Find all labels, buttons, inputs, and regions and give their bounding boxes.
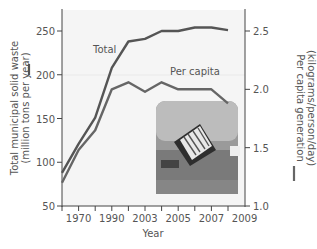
svg-text:1.5: 1.5 [253, 143, 269, 154]
svg-text:1990: 1990 [99, 213, 124, 224]
left-y-ticks: 50100150200250 [36, 26, 62, 212]
svg-text:200: 200 [36, 70, 55, 81]
svg-text:(kilograms/person/day): (kilograms/person/day) [306, 50, 317, 166]
right-axis-title: Per capita generation (kilograms/person/… [295, 50, 317, 166]
inset-photo [156, 101, 240, 194]
svg-text:250: 250 [36, 26, 55, 37]
right-y-ticks: 1.01.52.02.5 [245, 26, 269, 212]
svg-text:50: 50 [42, 201, 55, 212]
svg-text:Per capita generation: Per capita generation [295, 54, 306, 161]
svg-text:150: 150 [36, 114, 55, 125]
svg-text:1.0: 1.0 [253, 201, 269, 212]
chart: 197019902003200520072009 50100150200250 … [0, 0, 317, 249]
svg-text:2007: 2007 [199, 213, 224, 224]
x-ticks: 197019902003200520072009 [62, 206, 257, 224]
svg-text:2003: 2003 [132, 213, 157, 224]
svg-text:1970: 1970 [66, 213, 91, 224]
svg-text:Total municipal solid waste: Total municipal solid waste [9, 41, 20, 176]
label-total: Total [92, 44, 116, 55]
svg-text:2.0: 2.0 [253, 84, 269, 95]
left-axis-title: Total municipal solid waste (million ton… [9, 41, 31, 176]
svg-text:2009: 2009 [232, 213, 257, 224]
svg-text:2.5: 2.5 [253, 26, 269, 37]
label-per-capita: Per capita [170, 66, 220, 77]
svg-text:100: 100 [36, 157, 55, 168]
svg-text:2005: 2005 [165, 213, 190, 224]
x-axis-title: Year [141, 228, 164, 239]
